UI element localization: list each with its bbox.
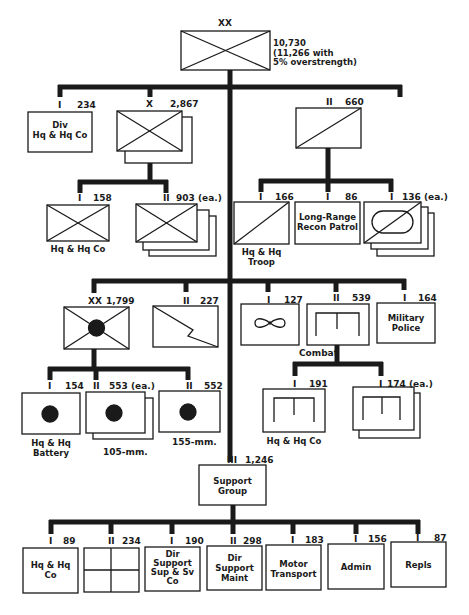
sup-unit-5-echelon: I (354, 534, 357, 544)
sup-unit-5-strength: 156 (368, 534, 387, 544)
support-strength: 1,246 (245, 455, 273, 465)
lrrp-box[interactable]: Long-Range Recon Patrol (295, 212, 360, 232)
armored-cav-echelon: I (390, 192, 393, 202)
division-note-2: 5% overstrength) (273, 57, 357, 67)
signal-echelon: II (183, 296, 190, 306)
lrrp-strength: 86 (345, 192, 358, 202)
sup-unit-1-strength: 234 (122, 536, 141, 546)
sup-unit-4-strength: 183 (305, 535, 324, 545)
engineer-strength: 539 (352, 293, 371, 303)
engineer-label: Combat (299, 348, 338, 358)
sup-unit-3-strength: 298 (243, 536, 262, 546)
sup-unit-hq-box[interactable]: Hq & Hq Co (23, 560, 78, 580)
lrrp-echelon: I (326, 192, 329, 202)
mp-strength: 164 (418, 293, 437, 303)
div-hq-label-2: Hq & Hq Co (28, 130, 92, 140)
sup-unit-transport-box[interactable]: Motor Transport (266, 559, 321, 579)
brigade-hq-strength: 158 (93, 193, 112, 203)
brigade-hq-echelon: I (78, 193, 81, 203)
sup-unit-maint-box[interactable]: Dir Support Maint (207, 553, 262, 583)
sup-unit-0-line-1: Hq & Hq (23, 560, 78, 570)
sup-unit-3-line-3: Maint (207, 573, 262, 583)
mp-echelon: I (403, 293, 406, 303)
sup-unit-3-echelon: II (230, 536, 237, 546)
support-label-2: Group (199, 486, 266, 496)
sup-unit-repls-box[interactable]: Repls (391, 560, 446, 570)
infantry-bn-echelon: II (163, 193, 170, 203)
cavalry-echelon: II (326, 97, 333, 107)
armored-cav-strength: 136 (ea.) (402, 192, 448, 202)
aviation-strength: 127 (284, 295, 303, 305)
division-strength: 10,730 (273, 38, 306, 48)
cavalry-strength: 660 (345, 97, 364, 107)
sup-unit-0-strength: 89 (63, 536, 76, 546)
sup-unit-6-line-1: Repls (391, 560, 446, 570)
mp-label-1: Military (377, 313, 435, 323)
aviation-echelon: I (267, 295, 270, 305)
sup-unit-3-line-1: Dir (207, 553, 262, 563)
div-hq-strength: 234 (77, 100, 96, 110)
support-group-box[interactable]: Support Group (199, 476, 266, 496)
sup-unit-3-line-2: Support (207, 563, 262, 573)
lrrp-label-1: Long-Range (295, 212, 360, 222)
engineer-echelon: II (333, 293, 340, 303)
sup-unit-6-strength: 87 (434, 533, 447, 543)
division-echelon: XX (218, 18, 232, 28)
div-hq-echelon: I (58, 100, 61, 110)
division-box[interactable] (181, 31, 270, 70)
cav-troop-label-2: Troop (234, 257, 289, 267)
eng-co-echelon: I (379, 379, 382, 389)
arty-155-strength: 552 (204, 381, 223, 391)
eng-hq-echelon: I (293, 379, 296, 389)
sup-unit-2-line-4: Co (145, 577, 200, 586)
sup-unit-1-echelon: II (108, 536, 115, 546)
arty-hq-label: Hq & Hq Battery (22, 438, 80, 458)
eng-hq-strength: 191 (309, 379, 328, 389)
arty-155-label: 155-mm. (172, 437, 217, 447)
support-echelon: III (227, 455, 237, 465)
sup-unit-admin-box[interactable]: Admin (328, 562, 384, 572)
sup-unit-0-echelon: I (49, 536, 52, 546)
org-chart-lines (0, 0, 469, 615)
cav-troop-label-1: Hq & Hq (234, 247, 289, 257)
arty-105-strength: 553 (ea.) (109, 381, 155, 391)
sup-unit-signal-box[interactable] (84, 548, 139, 592)
cav-troop-label: Hq & Hq Troop (234, 247, 289, 267)
sup-unit-6-echelon: I (416, 533, 419, 543)
eng-co-strength: 174 (ea.) (387, 379, 433, 389)
signal-strength: 227 (200, 296, 219, 306)
brigade-echelon: X (146, 99, 153, 109)
lrrp-label-2: Recon Patrol (295, 222, 360, 232)
sup-unit-dir-sup-box[interactable]: Dir Support Sup & Sv Co (145, 550, 200, 586)
div-hq-box[interactable]: Div Hq & Hq Co (28, 120, 92, 140)
artillery-echelon: XX (88, 296, 102, 306)
cav-troop-strength: 166 (275, 192, 294, 202)
mp-label-2: Police (377, 323, 435, 333)
sup-unit-0-line-2: Co (23, 570, 78, 580)
cav-troop-echelon: I (259, 192, 262, 202)
sup-unit-4-line-2: Transport (266, 569, 321, 579)
div-hq-label-1: Div (28, 120, 92, 130)
arty-hq-strength: 154 (65, 381, 84, 391)
arty-155-echelon: II (186, 381, 193, 391)
mp-box[interactable]: Military Police (377, 313, 435, 333)
arty-hq-echelon: I (48, 381, 51, 391)
arty-105-echelon: II (93, 381, 100, 391)
brigade-hq-label: Hq & Hq Co (40, 244, 116, 254)
arty-105-label: 105-mm. (103, 447, 148, 457)
brigade-strength: 2,867 (170, 99, 198, 109)
sup-unit-4-line-1: Motor (266, 559, 321, 569)
infantry-bn-strength: 903 (ea.) (176, 193, 222, 203)
arty-hq-label-2: Battery (22, 448, 80, 458)
arty-hq-label-1: Hq & Hq (22, 438, 80, 448)
sup-unit-2-strength: 190 (185, 536, 204, 546)
artillery-strength: 1,799 (106, 296, 134, 306)
sup-unit-2-echelon: I (170, 536, 173, 546)
eng-hq-label: Hq & Hq Co (258, 436, 330, 446)
sup-unit-4-echelon: I (291, 535, 294, 545)
sup-unit-5-line-1: Admin (328, 562, 384, 572)
support-label-1: Support (199, 476, 266, 486)
